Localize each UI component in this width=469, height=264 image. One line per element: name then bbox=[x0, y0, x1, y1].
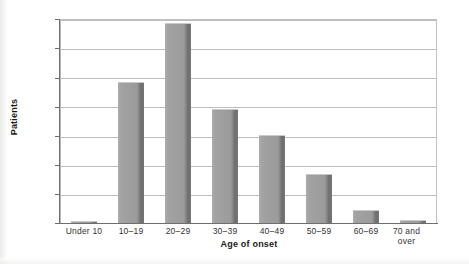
bar-30-39[interactable] bbox=[212, 109, 238, 223]
x-axis-title: Age of onset bbox=[60, 239, 438, 249]
bar-chart: Patients bbox=[0, 0, 469, 264]
bar-slot-4 bbox=[249, 20, 296, 223]
bar-slot-5 bbox=[296, 20, 343, 223]
x-axis-line bbox=[60, 223, 438, 224]
bar-slot-0 bbox=[61, 20, 108, 223]
y-tick-mark-360 bbox=[55, 48, 60, 49]
bar-40-49[interactable] bbox=[259, 135, 285, 223]
bar-10-19[interactable] bbox=[118, 82, 144, 223]
bars-layer bbox=[61, 20, 436, 223]
y-tick-mark-300 bbox=[55, 78, 60, 79]
bar-50-59[interactable] bbox=[306, 174, 332, 223]
bar-20-29[interactable] bbox=[165, 23, 191, 223]
y-tick-mark-420 bbox=[55, 19, 60, 20]
page-edge-shadow-bottom bbox=[0, 258, 469, 264]
bar-slot-6 bbox=[343, 20, 390, 223]
bar-slot-2 bbox=[155, 20, 202, 223]
page-edge-shadow-left bbox=[0, 0, 8, 264]
y-tick-mark-60 bbox=[55, 194, 60, 195]
y-tick-mark-0 bbox=[55, 223, 60, 224]
bar-slot-1 bbox=[108, 20, 155, 223]
bar-slot-7 bbox=[390, 20, 437, 223]
y-tick-mark-240 bbox=[55, 107, 60, 108]
y-tick-mark-120 bbox=[55, 165, 60, 166]
bar-slot-3 bbox=[202, 20, 249, 223]
y-axis-title: Patients bbox=[9, 82, 19, 152]
bar-60-69[interactable] bbox=[353, 210, 379, 223]
y-tick-mark-180 bbox=[55, 136, 60, 137]
